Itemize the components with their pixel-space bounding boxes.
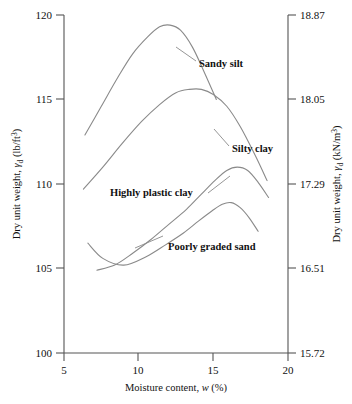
right-axis-unit-close: ) <box>331 125 343 129</box>
right-axis: 18.87 18.05 17.29 16.51 15.72 <box>288 9 325 359</box>
w-symbol: w <box>202 382 209 393</box>
annotation-sandy-silt: Sandy silt <box>199 58 244 69</box>
annotation-highly-plastic-clay: Highly plastic clay <box>110 187 194 198</box>
left-tick-label-115: 115 <box>36 93 53 105</box>
x-tick-label-10: 10 <box>133 364 145 376</box>
left-tick-label-105: 105 <box>36 262 53 274</box>
chart-svg: 120 115 110 105 100 Dry unit weight, γd … <box>0 0 352 404</box>
right-tick-label-1887: 18.87 <box>300 9 325 21</box>
x-axis-unit: (%) <box>209 382 228 394</box>
svg-text:Dry unit weight, γd (lb/ft3): Dry unit weight, γd (lb/ft3) <box>10 128 25 239</box>
leader-silty-clay <box>214 129 229 146</box>
right-tick-label-1805: 18.05 <box>300 93 325 105</box>
annotation-leaders <box>135 47 230 248</box>
curve-silty-clay <box>83 89 267 189</box>
curve-poorly-graded-sand <box>88 202 258 265</box>
svg-text:Dry unit weight, γd (kN/m3): Dry unit weight, γd (kN/m3) <box>330 125 345 242</box>
curve-sandy-silt <box>85 25 216 135</box>
curve-highly-plastic-clay <box>97 167 269 270</box>
left-axis-title: Dry unit weight, γd (lb/ft3) <box>10 128 25 239</box>
right-axis-unit-open: (kN/m <box>331 133 343 163</box>
x-tick-label-5: 5 <box>61 364 67 376</box>
x-tick-label-15: 15 <box>208 364 220 376</box>
leader-poorly-graded-sand <box>135 236 163 248</box>
left-axis: 120 115 110 105 100 <box>36 9 65 359</box>
right-axis-title-text: Dry unit weight, <box>331 171 342 243</box>
left-tick-label-110: 110 <box>36 178 53 190</box>
chart-figure: 120 115 110 105 100 Dry unit weight, γd … <box>0 0 352 404</box>
right-axis-title: Dry unit weight, γd (kN/m3) <box>330 125 345 242</box>
annotation-silty-clay: Silty clay <box>232 143 274 154</box>
left-axis-unit-close: ) <box>11 128 23 132</box>
x-axis-title-text: Moisture content, <box>125 382 202 393</box>
left-tick-label-100: 100 <box>36 347 53 359</box>
right-tick-label-1729: 17.29 <box>300 178 325 190</box>
annotation-poorly-graded-sand: Poorly graded sand <box>168 241 256 252</box>
left-axis-unit-open: (lb/ft <box>11 136 23 160</box>
right-tick-label-1572: 15.72 <box>300 347 325 359</box>
left-axis-title-text: Dry unit weight, <box>11 168 22 240</box>
x-axis: 5 10 15 20 Moisture content, w (%) <box>61 353 294 394</box>
left-tick-label-120: 120 <box>36 9 53 21</box>
right-tick-label-1651: 16.51 <box>300 262 325 274</box>
x-tick-label-20: 20 <box>283 364 295 376</box>
x-axis-title: Moisture content, w (%) <box>125 382 228 394</box>
